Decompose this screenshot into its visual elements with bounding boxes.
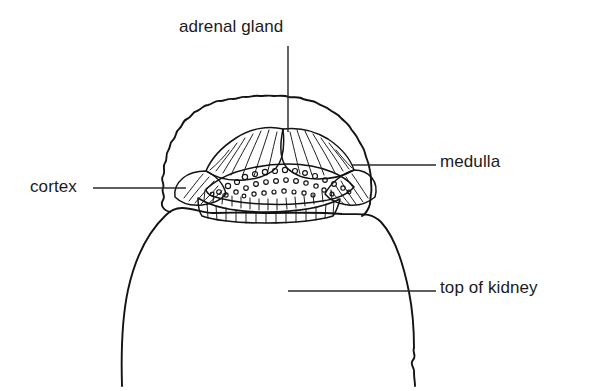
label-top-of-kidney: top of kidney [440, 278, 538, 298]
label-cortex: cortex [30, 177, 77, 197]
adrenal-gland-capsule [162, 96, 372, 216]
kidney-top [122, 208, 415, 386]
leader-lines [93, 46, 436, 291]
adrenal-cortex [175, 127, 376, 223]
anatomical-figure: adrenal gland medulla cortex top of kidn… [0, 0, 591, 391]
adrenal-gland-drawing [0, 0, 591, 391]
label-medulla: medulla [440, 152, 500, 172]
label-adrenal-gland: adrenal gland [179, 17, 283, 37]
